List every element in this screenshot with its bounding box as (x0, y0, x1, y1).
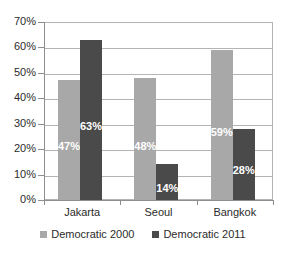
bar-value-label: 28% (233, 164, 255, 176)
legend-label: Democratic 2011 (163, 228, 245, 240)
y-axis-label: 70% (0, 16, 36, 27)
legend-label: Democratic 2000 (51, 228, 134, 240)
bar-group: 47% 63% (44, 22, 120, 200)
bar-value-label: 63% (80, 120, 102, 132)
bar-chart: 70% 60% 50% 40% 30% 20% 10% 0% 47% 63% 4… (0, 0, 286, 255)
bar-group: 59% 28% (197, 22, 273, 200)
bar-value-label: 14% (156, 182, 178, 194)
bar-series-0: 47% (58, 80, 80, 200)
bar-series-0: 59% (211, 50, 233, 200)
y-axis-label: 30% (0, 118, 36, 129)
bar-value-label: 59% (211, 126, 233, 138)
y-axis-label: 40% (0, 92, 36, 103)
bar-value-label: 48% (134, 140, 156, 152)
legend-item-democratic-2011: Democratic 2011 (152, 228, 245, 240)
x-axis-category-label: Jakarta (44, 206, 120, 219)
bar-series-1: 28% (233, 129, 255, 200)
x-axis-tick (120, 200, 121, 205)
y-axis-label: 20% (0, 143, 36, 154)
legend-swatch-icon (40, 231, 47, 238)
bar-group: 48% 14% (120, 22, 196, 200)
y-axis-label: 60% (0, 41, 36, 52)
chart-legend: Democratic 2000 Democratic 2011 (0, 228, 286, 240)
bar-series-1: 14% (156, 164, 178, 200)
y-axis-label: 10% (0, 169, 36, 180)
x-axis-category-label: Seoul (120, 206, 196, 219)
bar-value-label: 47% (58, 140, 80, 152)
bar-series-1: 63% (80, 40, 102, 200)
y-axis-label: 0% (0, 194, 36, 205)
x-axis-category-label: Bangkok (197, 206, 273, 219)
x-axis-line (44, 200, 274, 201)
legend-swatch-icon (152, 231, 159, 238)
y-axis-label: 50% (0, 67, 36, 78)
legend-item-democratic-2000: Democratic 2000 (40, 228, 134, 240)
bar-series-0: 48% (134, 78, 156, 200)
x-axis-tick (197, 200, 198, 205)
x-axis-tick (273, 200, 274, 205)
x-axis-tick (44, 200, 45, 205)
